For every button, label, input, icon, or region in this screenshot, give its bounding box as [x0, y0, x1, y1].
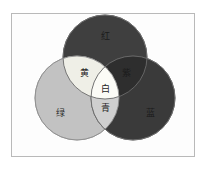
figure-root: 红 绿 蓝 黄 紫 青 白 [0, 0, 208, 170]
figure-frame: 红 绿 蓝 黄 紫 青 白 [11, 13, 195, 157]
venn-diagram: 红 绿 蓝 黄 紫 青 白 [12, 14, 194, 156]
venn-circles-svg [12, 14, 194, 156]
